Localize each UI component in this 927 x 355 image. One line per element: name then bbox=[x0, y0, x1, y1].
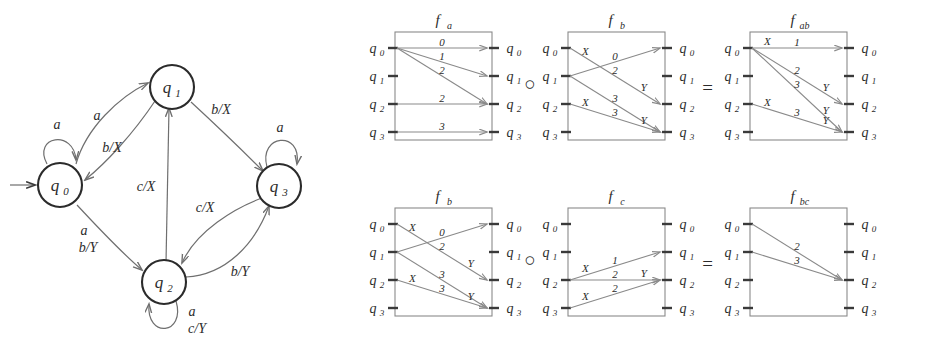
row-ab-operand-1-title-sub: b bbox=[620, 20, 625, 31]
svg-text:q: q bbox=[725, 217, 732, 232]
row-ab-operand-1-in-port-q1: q1 bbox=[543, 69, 558, 86]
row-bc-operand-1-edge-1-label: 2 bbox=[612, 268, 618, 280]
state-label-q0: q bbox=[51, 176, 60, 195]
svg-text:2: 2 bbox=[690, 280, 695, 290]
row-ab-operand-0-edge-2-label: 2 bbox=[439, 64, 445, 76]
svg-text:0: 0 bbox=[553, 48, 558, 58]
row-ab-operand-1-out-port-q3: q3 bbox=[680, 125, 695, 142]
row-bc-operand-1-title-base: f bbox=[608, 188, 614, 204]
row-ab-result-edge-0: 1X bbox=[752, 35, 842, 48]
row-bc: fbq0q0q1q1q2q2q3q32XY033XYfcq0q0q1q1q2q2… bbox=[370, 188, 877, 318]
row-ab-operand-0-out-port-q0: q0 bbox=[507, 41, 522, 58]
row-bc-operand-0-in-port-q1: q1 bbox=[370, 245, 385, 262]
svg-text:q: q bbox=[680, 97, 687, 112]
row-bc-operand-1-out-port-q0: q0 bbox=[680, 217, 695, 234]
row-ab-operand-1-edge-3-inlabel: X bbox=[581, 96, 590, 108]
row-ab-result-out-port-q0: q0 bbox=[862, 41, 877, 58]
svg-text:q: q bbox=[370, 217, 377, 232]
svg-text:q: q bbox=[543, 69, 550, 84]
row-ab-operand-1-edge-3-label: 3 bbox=[611, 106, 618, 118]
svg-text:3: 3 bbox=[689, 308, 695, 318]
state-node-q1[interactable]: q 1 bbox=[150, 65, 194, 109]
transition-label-q0-q2-line1: a bbox=[81, 223, 88, 238]
state-sub-q2: 2 bbox=[167, 282, 173, 294]
row-ab-equals-sign: = bbox=[702, 77, 713, 98]
row-ab-operand-0-in-port-q0: q0 bbox=[370, 41, 385, 58]
state-sub-q3: 3 bbox=[281, 186, 288, 198]
row-bc-operand-0-in-port-q2: q2 bbox=[370, 273, 385, 290]
transition-label-q3-self: a bbox=[277, 120, 284, 135]
state-sub-q1: 1 bbox=[175, 87, 181, 99]
row-bc-operand-0-title-sub: b bbox=[447, 196, 452, 207]
svg-text:q: q bbox=[507, 273, 514, 288]
row-bc-operand-0-edge-3-label: 3 bbox=[438, 282, 445, 294]
row-bc-operand-0-edge-2-label: 3 bbox=[438, 268, 445, 280]
row-bc-operand-0-edge-0-label: 2 bbox=[439, 240, 445, 252]
svg-text:q: q bbox=[680, 69, 687, 84]
row-bc-result-out-port-q0: q0 bbox=[862, 217, 877, 234]
row-ab-operand-1-edge-0-inlabel: X bbox=[581, 45, 590, 57]
svg-text:q: q bbox=[725, 273, 732, 288]
svg-text:q: q bbox=[543, 301, 550, 316]
row-ab-operand-1-in-port-q2: q2 bbox=[543, 97, 558, 114]
svg-text:0: 0 bbox=[380, 224, 385, 234]
row-ab-operand-1-out-port-q0: q0 bbox=[680, 41, 695, 58]
row-ab-operand-0-edge-0-label: 0 bbox=[439, 36, 445, 48]
row-bc-operand-0-edge-0-inlabel: X bbox=[408, 221, 417, 233]
svg-text:q: q bbox=[370, 69, 377, 84]
row-bc-operand-0-out-port-q0: q0 bbox=[507, 217, 522, 234]
row-bc-operand-0-out-port-q1: q1 bbox=[507, 245, 522, 262]
transition-label-q0-self: a bbox=[54, 117, 61, 132]
svg-text:1: 1 bbox=[517, 76, 522, 86]
svg-text:q: q bbox=[862, 217, 869, 232]
svg-text:0: 0 bbox=[735, 48, 740, 58]
svg-text:1: 1 bbox=[872, 252, 877, 262]
state-node-q0[interactable]: q 0 bbox=[38, 163, 82, 207]
svg-text:3: 3 bbox=[379, 308, 385, 318]
row-ab-result-out-port-q2: q2 bbox=[862, 97, 877, 114]
svg-text:1: 1 bbox=[553, 252, 558, 262]
svg-text:q: q bbox=[507, 301, 514, 316]
svg-text:q: q bbox=[543, 217, 550, 232]
row-bc-composition-operator: ○ bbox=[524, 249, 535, 270]
row-bc-equals-sign: = bbox=[702, 253, 713, 274]
row-bc-result-in-port-q3: q3 bbox=[725, 301, 740, 318]
svg-text:1: 1 bbox=[517, 252, 522, 262]
transition-label-q3-q2: c/X bbox=[196, 200, 215, 215]
svg-text:1: 1 bbox=[380, 252, 385, 262]
row-bc-operand-1-edge-0-inlabel: X bbox=[581, 262, 590, 274]
row-ab-result-out-port-q1: q1 bbox=[862, 69, 877, 86]
row-bc-result-out-port-q3: q3 bbox=[862, 301, 877, 318]
row-bc-result-in-port-q1: q1 bbox=[725, 245, 740, 262]
svg-text:q: q bbox=[680, 273, 687, 288]
row-ab-operand-0-in-port-q1: q1 bbox=[370, 69, 385, 86]
transition-q2-q1: c/X bbox=[137, 108, 169, 263]
svg-text:q: q bbox=[543, 125, 550, 140]
transition-q3-q2: c/X bbox=[182, 198, 262, 263]
row-bc-operand-1-edge-0-label: 1 bbox=[612, 254, 618, 266]
transition-label-q0-q1: a bbox=[94, 108, 101, 123]
row-bc-operand-0-in-port-q0: q0 bbox=[370, 217, 385, 234]
svg-text:q: q bbox=[725, 41, 732, 56]
function-composition-diagrams: faq0q0q1q1q2q2q3q301223fbq0q0q1q1q2q2q3q… bbox=[350, 0, 927, 355]
svg-text:3: 3 bbox=[689, 132, 695, 142]
row-ab-operand-1-title-base: f bbox=[608, 12, 614, 28]
svg-text:q: q bbox=[507, 125, 514, 140]
svg-text:q: q bbox=[370, 301, 377, 316]
composition-svg: faq0q0q1q1q2q2q3q301223fbq0q0q1q1q2q2q3q… bbox=[350, 0, 927, 355]
svg-text:q: q bbox=[725, 125, 732, 140]
svg-text:q: q bbox=[862, 273, 869, 288]
state-node-q2[interactable]: q 2 bbox=[142, 260, 186, 304]
state-node-q3[interactable]: q 3 bbox=[257, 164, 301, 208]
transition-q0-q0: a bbox=[44, 117, 76, 164]
row-bc-result-in-port-q0: q0 bbox=[725, 217, 740, 234]
svg-text:q: q bbox=[862, 69, 869, 84]
row-ab-result-edge-0-label: 1 bbox=[794, 36, 800, 48]
svg-text:0: 0 bbox=[872, 224, 877, 234]
row-ab-result-in-port-q1: q1 bbox=[725, 69, 740, 86]
row-ab-operand-1-in-port-q0: q0 bbox=[543, 41, 558, 58]
svg-text:0: 0 bbox=[553, 224, 558, 234]
svg-text:q: q bbox=[543, 41, 550, 56]
svg-text:1: 1 bbox=[690, 76, 695, 86]
row-bc-result-title-base: f bbox=[790, 188, 796, 204]
